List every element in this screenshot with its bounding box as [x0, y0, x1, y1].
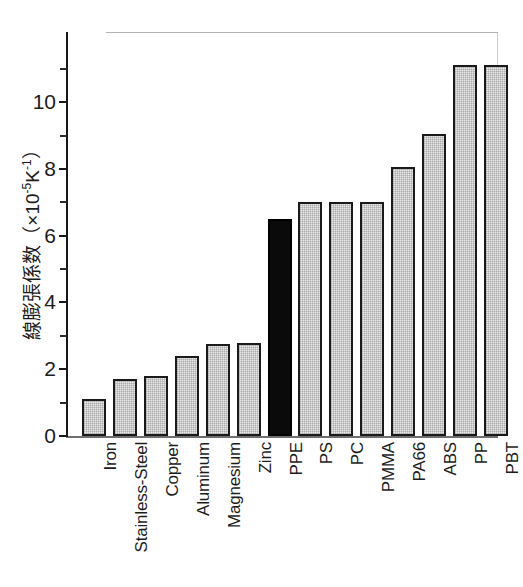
bar-series	[66, 32, 498, 436]
y-axis-title-exponent-2: -1	[20, 159, 34, 170]
x-tick-label-pp: PP	[472, 442, 492, 582]
y-tick-label: 8	[44, 157, 56, 181]
bar-ps	[298, 202, 322, 436]
bar-magnesium	[206, 344, 230, 436]
bar-zinc	[237, 343, 261, 436]
bar-pp	[453, 65, 477, 436]
x-tick-label-copper: Copper	[163, 442, 183, 582]
y-tick-label: 4	[44, 290, 56, 314]
y-tick-label: 0	[44, 424, 56, 448]
x-tick-label-pa66: PA66	[410, 442, 430, 582]
x-tick-label-pbt: PBT	[503, 442, 523, 582]
x-tick-label-magnesium: Magnesium	[225, 442, 245, 582]
bar-pc	[329, 202, 353, 436]
bar-pmma	[360, 202, 384, 436]
x-tick-label-pmma: PMMA	[379, 442, 399, 582]
x-tick-label-zinc: Zinc	[256, 442, 276, 582]
y-axis-title-text: 線膨張係数（×10-5K-1）	[17, 140, 44, 339]
bar-copper	[144, 376, 168, 436]
x-tick-label-aluminum: Aluminum	[194, 442, 214, 582]
y-tick-label: 6	[44, 224, 56, 248]
x-tick-label-abs: ABS	[441, 442, 461, 582]
y-axis-title-main: 線膨張係数（×10	[22, 193, 43, 339]
x-tick-label-stainless-steel: Stainless-Steel	[132, 442, 152, 582]
x-tick-label-ppe: PPE	[287, 442, 307, 582]
bar-iron	[82, 399, 106, 436]
x-tick-label-ps: PS	[317, 442, 337, 582]
y-tick-label: 2	[44, 357, 56, 381]
x-tick-label-pc: PC	[348, 442, 368, 582]
bar-abs	[422, 134, 446, 436]
bar-pa66	[391, 167, 415, 436]
x-axis-line	[66, 436, 498, 438]
bar-ppe	[268, 219, 292, 436]
y-axis-title-unit: K	[22, 170, 43, 183]
plot-area: 0246810	[66, 32, 498, 438]
x-axis-tick-labels: IronStainless-SteelCopperAluminumMagnesi…	[66, 442, 498, 582]
y-axis-title-exponent-1: -5	[20, 183, 34, 194]
bar-stainless-steel	[113, 379, 137, 436]
y-tick-label: 10	[33, 90, 56, 114]
y-axis-title-close-paren: ）	[22, 140, 43, 159]
x-tick-label-iron: Iron	[101, 442, 121, 582]
bar-aluminum	[175, 356, 199, 436]
bar-pbt	[484, 65, 508, 436]
